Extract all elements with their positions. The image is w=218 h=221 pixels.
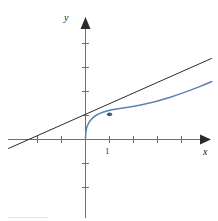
x-axis-label: x [203,147,207,157]
x-axis-arrowhead [200,135,211,145]
x-tick-label-1: 1 [105,147,110,156]
figure-bottom-rule [8,217,48,218]
figure-container: y x 1 [0,0,218,221]
y-axis-label: y [64,13,68,23]
y-axis-arrowhead [81,17,91,29]
plot-canvas [0,0,218,221]
cube-root-curve [86,82,212,140]
tangent-point-marker [107,112,112,116]
tangent-line [8,58,212,148]
